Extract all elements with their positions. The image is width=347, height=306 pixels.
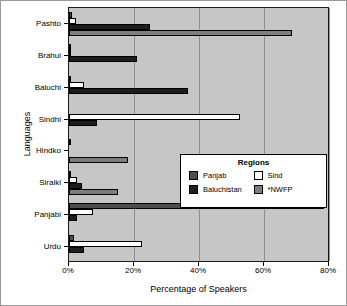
legend-label: *NWFP	[268, 185, 293, 194]
legend-swatch-panjab-icon	[189, 171, 198, 180]
x-tick-40	[198, 262, 199, 266]
legend-title: Regions	[181, 158, 326, 167]
x-tick-0	[68, 262, 69, 266]
legend-swatch-baluchistan-icon	[189, 185, 198, 194]
bar-sindhi-baluchistan	[69, 120, 97, 126]
x-tick-label-20: 20%	[125, 266, 141, 275]
y-tick-label-baluchi: Baluchi	[35, 82, 61, 91]
gridline-60	[264, 8, 265, 261]
bar-pashto-nwfp	[69, 30, 292, 36]
gridline-40	[199, 8, 200, 261]
y-tick-label-hindko: Hindko	[36, 146, 61, 155]
bar-baluchi-baluchistan	[69, 88, 188, 94]
y-tick-brahui	[64, 55, 68, 56]
x-tick-label-60: 60%	[255, 266, 271, 275]
x-tick-label-80: 80%	[320, 266, 336, 275]
y-tick-baluchi	[64, 87, 68, 88]
y-tick-label-panjabi: Panjabi	[34, 210, 61, 219]
plot-area	[68, 7, 329, 262]
y-tick-panjabi	[64, 214, 68, 215]
x-tick-80	[328, 262, 329, 266]
bar-brahui-baluchistan	[69, 56, 137, 62]
x-tick-label-40: 40%	[190, 266, 206, 275]
gridline-20	[134, 8, 135, 261]
legend-item-baluchistan[interactable]: Baluchistan	[189, 185, 254, 194]
legend-item-panjab[interactable]: Panjab	[189, 171, 254, 180]
x-tick-label-0: 0%	[62, 266, 74, 275]
legend-swatch-sind-icon	[254, 171, 263, 180]
y-axis-title: Languages	[22, 112, 32, 157]
legend-label: Baluchistan	[203, 185, 242, 194]
bar-siraiki-nwfp	[69, 189, 118, 195]
y-tick-label-urdu: Urdu	[44, 242, 61, 251]
y-tick-pashto	[64, 23, 68, 24]
y-tick-sindhi	[64, 119, 68, 120]
y-tick-hindko	[64, 150, 68, 151]
legend-item-sind[interactable]: Sind	[254, 171, 319, 180]
x-tick-60	[263, 262, 264, 266]
y-tick-label-pashto: Pashto	[36, 18, 61, 27]
gridline-80	[329, 8, 330, 261]
bar-panjabi-baluchistan	[69, 215, 77, 221]
legend-box: Regions PanjabSindBaluchistan*NWFP	[180, 154, 327, 208]
legend-swatch-nwfp-icon	[254, 185, 263, 194]
legend-items: PanjabSindBaluchistan*NWFP	[181, 171, 326, 199]
legend-label: Panjab	[203, 171, 226, 180]
y-tick-siraiki	[64, 182, 68, 183]
y-tick-urdu	[64, 246, 68, 247]
chart-figure: Languages Percentage of Speakers PashtoB…	[0, 0, 347, 306]
bar-hindko-panjab	[69, 139, 71, 145]
bar-hindko-nwfp	[69, 157, 128, 163]
x-tick-20	[133, 262, 134, 266]
x-axis-title: Percentage of Speakers	[68, 284, 329, 294]
legend-label: Sind	[268, 171, 283, 180]
bar-urdu-baluchistan	[69, 247, 84, 253]
y-tick-label-siraiki: Siraiki	[39, 178, 61, 187]
y-tick-label-sindhi: Sindhi	[39, 114, 61, 123]
legend-item-nwfp[interactable]: *NWFP	[254, 185, 319, 194]
y-tick-label-brahui: Brahui	[38, 50, 61, 59]
